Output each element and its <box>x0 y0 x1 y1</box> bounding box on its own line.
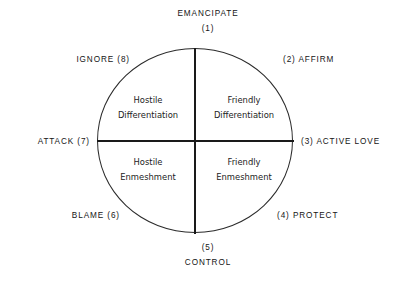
pole-label-emancipate: EMANCIPATE (1) <box>0 8 416 34</box>
pole-name: BLAME (6) <box>72 211 120 220</box>
pole-label-protect: (4) PROTECT <box>277 210 338 221</box>
pole-name: (2) AFFIRM <box>283 55 334 64</box>
quadrant-line-2: Differentiation <box>198 108 290 123</box>
quadrant-label-hostile-differentiation: Hostile Differentiation <box>104 93 192 122</box>
quadrant-label-hostile-enmeshment: Hostile Enmeshment <box>104 155 192 184</box>
quadrant-line-2: Differentiation <box>104 108 192 123</box>
pole-name: (3) ACTIVE LOVE <box>301 137 380 146</box>
horizontal-axis-line <box>97 140 294 142</box>
pole-label-attack: ATTACK (7) <box>0 136 90 147</box>
quadrant-line-1: Friendly <box>227 95 260 105</box>
pole-label-active-love: (3) ACTIVE LOVE <box>301 136 380 147</box>
pole-number: (1) <box>0 23 416 34</box>
pole-name: IGNORE (8) <box>76 55 130 64</box>
pole-label-blame: BLAME (6) <box>8 210 120 221</box>
quadrant-label-friendly-differentiation: Friendly Differentiation <box>198 93 290 122</box>
pole-label-control: (5) CONTROL <box>0 242 416 268</box>
quadrant-line-1: Friendly <box>227 157 260 167</box>
circumplex-diagram: Hostile Differentiation Friendly Differe… <box>0 0 416 284</box>
pole-label-ignore: IGNORE (8) <box>18 54 130 65</box>
quadrant-line-1: Hostile <box>134 95 163 105</box>
pole-number: (5) <box>0 242 416 253</box>
quadrant-line-1: Hostile <box>134 157 163 167</box>
quadrant-label-friendly-enmeshment: Friendly Enmeshment <box>198 155 290 184</box>
quadrant-line-2: Enmeshment <box>198 170 290 185</box>
pole-name: ATTACK (7) <box>38 137 90 146</box>
pole-name: CONTROL <box>185 258 231 267</box>
quadrant-line-2: Enmeshment <box>104 170 192 185</box>
pole-name: EMANCIPATE <box>177 9 238 18</box>
pole-label-affirm: (2) AFFIRM <box>283 54 334 65</box>
pole-name: (4) PROTECT <box>277 211 338 220</box>
